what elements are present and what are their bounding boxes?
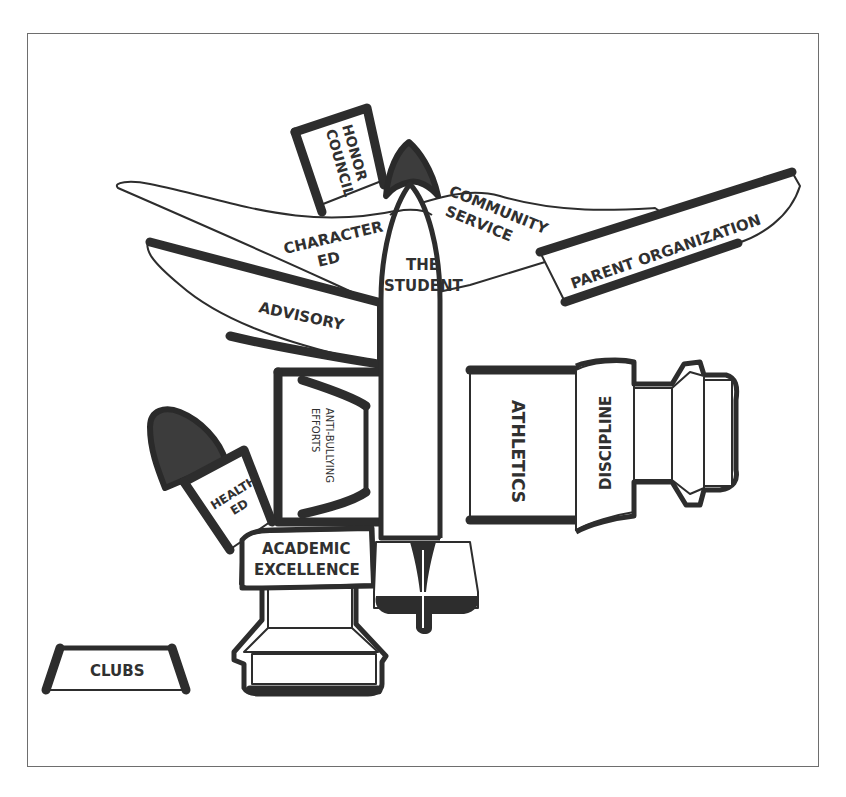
clubs-label: CLUBS (90, 662, 144, 680)
svg-text:ACADEMIC: ACADEMIC (262, 540, 350, 558)
honor-council-panel: HONOR COUNCIL (295, 108, 384, 212)
anti-bullying-label-line2: EFFORTS (310, 408, 321, 452)
svg-text:STUDENT: STUDENT (384, 277, 463, 295)
academic-excellence-booster: ACADEMIC EXCELLENCE (234, 528, 386, 694)
athletics-label: ATHLETICS (508, 400, 528, 503)
health-ed-rocket: HEALTH ED (150, 409, 272, 550)
right-booster: DISCIPLINE ATHLETICS (470, 360, 737, 532)
clubs-piece: CLUBS (46, 648, 186, 690)
svg-text:EXCELLENCE: EXCELLENCE (254, 561, 360, 579)
anti-bullying-label-line1: ANTI-BULLYING (324, 408, 335, 483)
svg-text:THE: THE (406, 256, 439, 274)
rocket-diagram: PARENT ORGANIZATION ADVISORY HONOR COUNC… (0, 0, 846, 797)
parent-organization-panel: PARENT ORGANIZATION (540, 172, 800, 302)
left-booster: ANTI-BULLYING EFFORTS (278, 372, 380, 522)
discipline-label: DISCIPLINE (597, 396, 615, 490)
